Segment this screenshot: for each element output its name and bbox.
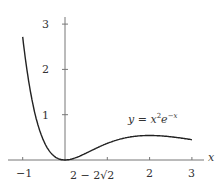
y-tick-label-3: 3 (42, 19, 49, 30)
axis-ticks (23, 24, 192, 160)
function-curve (23, 37, 192, 160)
plot-area (0, 0, 224, 188)
equation-label: y = x2e−x (128, 113, 177, 125)
x-axis-label: x (208, 152, 214, 163)
y-tick-label-1: 1 (42, 110, 49, 121)
chart: 3 2 1 −1 2 − 2√2 2 3 x y = x2e−x (0, 0, 224, 188)
x-tick-label-3: 3 (188, 168, 195, 179)
y-tick-label-2: 2 (42, 64, 49, 75)
x-tick-label-neg1: −1 (16, 168, 32, 179)
equation-exp2: −x (168, 112, 178, 120)
x-tick-label-2: 2 (146, 168, 153, 179)
x-tick-label-root: 2 − 2√2 (70, 170, 114, 181)
equation-base: y = x (128, 113, 157, 126)
